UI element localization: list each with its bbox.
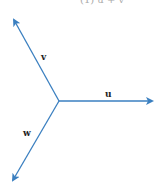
vector-diagram [0,0,159,190]
vector-w-arrow [13,101,59,180]
vector-u-label: u [105,89,112,99]
vector-w-label: w [23,128,31,138]
vector-v-arrow [14,20,59,101]
vector-v-label: v [41,52,46,62]
